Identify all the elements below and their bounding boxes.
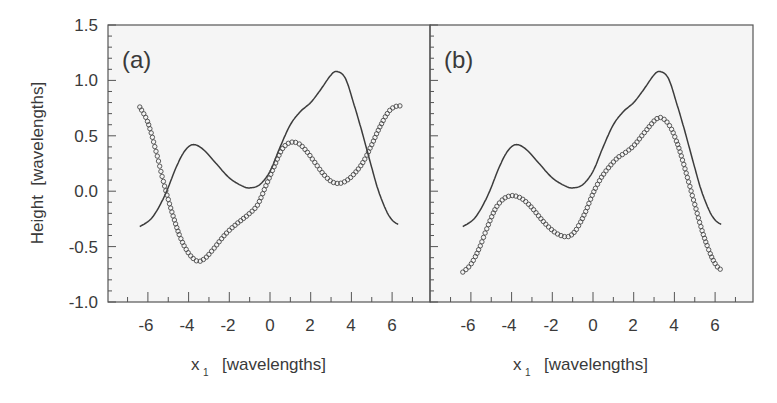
x-tick-label: -2 xyxy=(543,316,558,335)
x-tick-labels-b: -6 -4 -2 0 2 4 6 xyxy=(460,316,719,335)
x-axis-label-unit: [wavelengths] xyxy=(544,355,648,374)
x-tick-label: 0 xyxy=(588,316,597,335)
y-tick-label: -1.0 xyxy=(69,293,98,312)
x-tick-label: -4 xyxy=(179,316,194,335)
panel-a-label: (a) xyxy=(122,46,151,73)
y-tick-label: 0.5 xyxy=(74,127,98,146)
x-tick-label: 4 xyxy=(346,316,355,335)
x-axis-label-a: x 1 [wavelengths] xyxy=(191,355,326,378)
x-axis-label-subscript: 1 xyxy=(203,367,209,378)
x-axis-label-b: x 1 [wavelengths] xyxy=(513,355,648,378)
x-tick-label: -6 xyxy=(138,316,153,335)
chart-svg: (a) (b) 1.5 1.0 0.5 0.0 -0.5 -1.0 Height… xyxy=(0,0,777,403)
x-tick-label: 0 xyxy=(265,316,274,335)
x-tick-labels-a: -6 -4 -2 0 2 4 6 xyxy=(138,316,396,335)
x-tick-label: 2 xyxy=(305,316,314,335)
figure: (a) (b) 1.5 1.0 0.5 0.0 -0.5 -1.0 Height… xyxy=(0,0,777,403)
panel-a-background xyxy=(108,25,430,302)
y-tick-label: -0.5 xyxy=(69,238,98,257)
x-axis-label-var: x xyxy=(191,355,200,374)
x-tick-label: 6 xyxy=(710,316,719,335)
x-tick-label: -2 xyxy=(220,316,235,335)
x-tick-label: -4 xyxy=(501,316,516,335)
y-axis-label: Height [wavelengths] xyxy=(28,82,47,245)
y-tick-label: 0.0 xyxy=(74,182,98,201)
x-axis-label-var: x xyxy=(513,355,522,374)
y-tick-label: 1.0 xyxy=(74,71,98,90)
x-tick-label: 2 xyxy=(628,316,637,335)
x-tick-label: -6 xyxy=(460,316,475,335)
x-axis-label-subscript: 1 xyxy=(525,367,531,378)
x-tick-label: 4 xyxy=(669,316,678,335)
x-tick-label: 6 xyxy=(387,316,396,335)
x-axis-label-unit: [wavelengths] xyxy=(222,355,326,374)
panel-b-background xyxy=(430,25,753,302)
y-tick-label: 1.5 xyxy=(74,16,98,35)
y-tick-labels: 1.5 1.0 0.5 0.0 -0.5 -1.0 xyxy=(69,16,98,312)
panel-b-label: (b) xyxy=(444,46,473,73)
